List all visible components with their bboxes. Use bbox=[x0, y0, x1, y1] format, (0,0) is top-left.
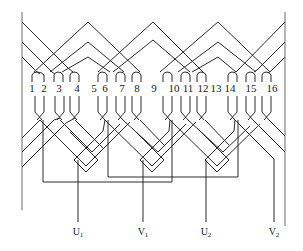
slot-label: 13 bbox=[211, 83, 222, 94]
lead-label-v1: V1 bbox=[138, 227, 149, 239]
slot-label: 11 bbox=[183, 83, 194, 94]
lead-label-u1: U1 bbox=[73, 227, 84, 239]
lead-label-u2: U2 bbox=[201, 227, 212, 239]
lead-wires bbox=[78, 159, 274, 222]
slot-loops-upper bbox=[32, 72, 271, 82]
slot-label: 4 bbox=[74, 83, 80, 94]
lead-label-v2: V2 bbox=[269, 227, 280, 239]
slot-label: 12 bbox=[198, 83, 209, 94]
phase-connection-bars bbox=[43, 120, 238, 182]
slot-label: 1 bbox=[29, 83, 35, 94]
upper-end-connections bbox=[22, 22, 285, 74]
slot-label: 15 bbox=[246, 83, 257, 94]
slot-label: 2 bbox=[41, 83, 47, 94]
slot-label: 6 bbox=[102, 83, 108, 94]
slot-label: 9 bbox=[151, 83, 157, 94]
slot-label: 7 bbox=[119, 83, 125, 94]
slot-loops-lower bbox=[35, 96, 271, 120]
slot-label: 16 bbox=[267, 83, 278, 94]
lower-end-connections bbox=[22, 118, 285, 172]
slot-label: 8 bbox=[134, 83, 140, 94]
lead-subscript: 2 bbox=[208, 231, 212, 239]
winding-diagram bbox=[0, 0, 303, 251]
lead-subscript: 1 bbox=[145, 231, 149, 239]
slot-label: 5 bbox=[91, 83, 97, 94]
slot-label: 3 bbox=[56, 83, 62, 94]
slot-label: 10 bbox=[169, 83, 180, 94]
lead-subscript: 1 bbox=[80, 231, 84, 239]
lead-subscript: 2 bbox=[276, 231, 280, 239]
slot-label: 14 bbox=[225, 83, 236, 94]
